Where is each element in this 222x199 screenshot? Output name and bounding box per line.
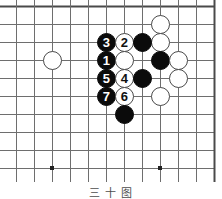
stone-white[interactable]: [151, 33, 170, 52]
stone-move-number: 7: [98, 88, 115, 105]
stone-white[interactable]: [115, 51, 134, 70]
stone-move-number: 1: [98, 52, 115, 69]
stone-white[interactable]: [169, 51, 188, 70]
stone-white[interactable]: [43, 51, 62, 70]
stone-white-move-2[interactable]: 2: [115, 33, 134, 52]
stone-white[interactable]: [151, 87, 170, 106]
stone-black[interactable]: [151, 51, 170, 70]
stone-move-number: 4: [116, 70, 133, 87]
stone-black[interactable]: [133, 69, 152, 88]
stone-black[interactable]: [133, 33, 152, 52]
stone-black-move-5[interactable]: 5: [97, 69, 116, 88]
stone-white-move-4[interactable]: 4: [115, 69, 134, 88]
stone-black-move-3[interactable]: 3: [97, 33, 116, 52]
stone-white[interactable]: [169, 69, 188, 88]
star-point: [50, 166, 54, 170]
stone-move-number: 3: [98, 34, 115, 51]
go-board[interactable]: 3215476: [0, 0, 222, 182]
figure-caption: 三 十 图: [0, 184, 222, 199]
stone-black[interactable]: [115, 105, 134, 124]
stone-move-number: 6: [116, 88, 133, 105]
stone-white[interactable]: [151, 15, 170, 34]
stone-black-move-1[interactable]: 1: [97, 51, 116, 70]
stone-move-number: 2: [116, 34, 133, 51]
stone-white-move-6[interactable]: 6: [115, 87, 134, 106]
go-diagram-screenshot: 3215476 三 十 图: [0, 0, 222, 199]
star-point: [158, 166, 162, 170]
stone-move-number: 5: [98, 70, 115, 87]
stone-black-move-7[interactable]: 7: [97, 87, 116, 106]
